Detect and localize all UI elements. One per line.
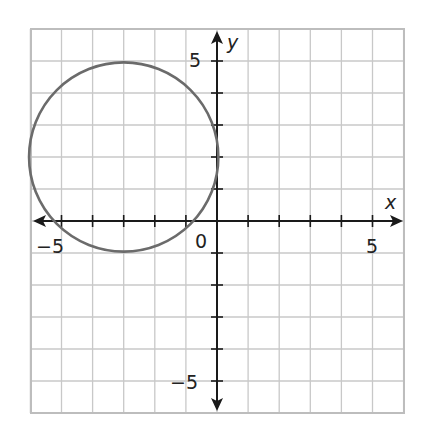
origin-label: 0	[195, 230, 207, 252]
coordinate-plane: y x 5 −5 −5 0 5	[0, 0, 427, 448]
x-axis-label: x	[384, 191, 397, 213]
y-axis-label: y	[226, 31, 239, 53]
y-tick-label-5: 5	[189, 49, 201, 71]
y-tick-label-neg5: −5	[170, 371, 198, 393]
x-tick-label-5: 5	[366, 235, 378, 257]
x-tick-label-neg5: −5	[36, 235, 64, 257]
